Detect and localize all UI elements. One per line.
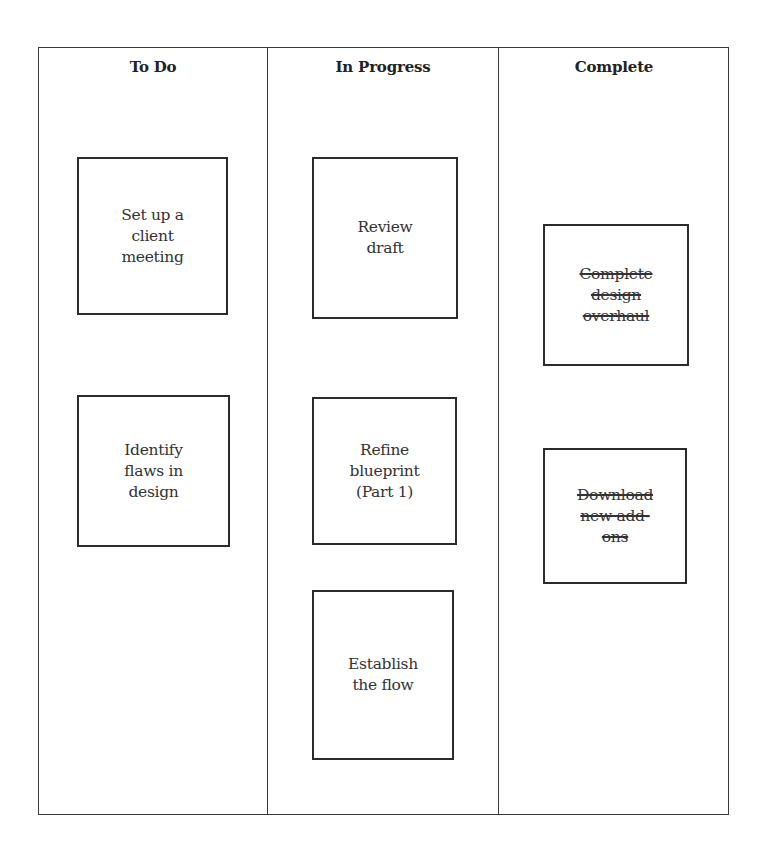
task-card-completed[interactable]: Download new add- ons <box>543 448 687 584</box>
task-card-completed[interactable]: Complete design overhaul <box>543 224 689 366</box>
task-card[interactable]: Establish the flow <box>312 590 454 760</box>
task-card-text: Review draft <box>345 217 424 259</box>
task-card[interactable]: Refine blueprint (Part 1) <box>312 397 457 545</box>
column-header-in-progress: In Progress <box>268 58 498 76</box>
task-card-text: Identify flaws in design <box>112 440 195 503</box>
column-divider <box>267 47 268 815</box>
task-card[interactable]: Review draft <box>312 157 458 319</box>
column-header-to-do: To Do <box>39 58 267 76</box>
task-card[interactable]: Identify flaws in design <box>77 395 230 547</box>
column-header-complete: Complete <box>499 58 729 76</box>
task-card[interactable]: Set up a client meeting <box>77 157 228 315</box>
task-card-text: Set up a client meeting <box>109 205 196 268</box>
column-divider <box>498 47 499 815</box>
task-card-text: Download new add- ons <box>565 485 665 548</box>
task-card-text: Refine blueprint (Part 1) <box>338 440 432 503</box>
task-card-text: Complete design overhaul <box>568 264 665 327</box>
task-card-text: Establish the flow <box>336 654 430 696</box>
